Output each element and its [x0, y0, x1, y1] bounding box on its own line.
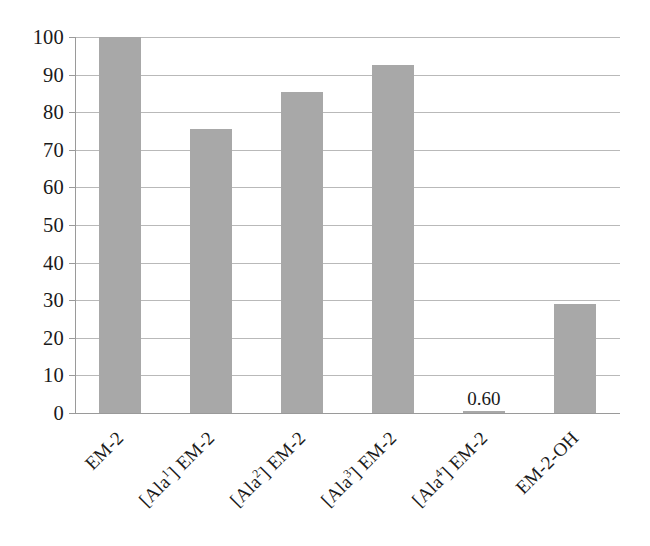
y-axis-tick	[69, 300, 76, 301]
y-axis-tick-label: 90	[6, 65, 64, 86]
gridline	[75, 75, 620, 76]
gridline	[75, 225, 620, 226]
y-axis-tick-label: 0	[6, 403, 64, 424]
bar	[190, 129, 232, 413]
y-axis-tick	[69, 338, 76, 339]
y-axis-tick-label: 80	[6, 102, 64, 123]
bar	[463, 411, 505, 413]
y-axis-tick	[69, 75, 76, 76]
plot-area	[75, 37, 620, 413]
bar	[99, 37, 141, 413]
y-axis-tick-label: 70	[6, 140, 64, 161]
gridline	[75, 375, 620, 376]
y-axis-tick-label: 50	[6, 215, 64, 236]
bar	[281, 92, 323, 413]
y-axis-tick-label: 100	[6, 27, 64, 48]
gridline	[75, 263, 620, 264]
y-axis-tick-label: 20	[6, 328, 64, 349]
gridline	[75, 300, 620, 301]
bar-chart: 1009080706050403020100 0.60 EM-2[Ala1] E…	[0, 0, 650, 546]
y-axis-tick-label: 10	[6, 365, 64, 386]
y-axis-tick	[69, 112, 76, 113]
gridline	[75, 187, 620, 188]
bar	[372, 65, 414, 413]
y-axis-tick-label: 60	[6, 177, 64, 198]
y-axis-tick	[69, 37, 76, 38]
y-axis-tick	[69, 150, 76, 151]
y-axis-tick	[69, 263, 76, 264]
y-axis-tick	[69, 375, 76, 376]
y-axis-tick-label: 30	[6, 290, 64, 311]
y-axis-tick-label: 40	[6, 253, 64, 274]
y-axis-tick	[69, 225, 76, 226]
gridline	[75, 112, 620, 113]
bar-value-label: 0.60	[467, 389, 500, 408]
y-axis-tick	[69, 413, 76, 414]
gridline	[75, 338, 620, 339]
y-axis-tick	[69, 187, 76, 188]
gridline	[75, 150, 620, 151]
gridline	[75, 37, 620, 38]
gridline	[75, 413, 620, 414]
bar	[554, 304, 596, 413]
